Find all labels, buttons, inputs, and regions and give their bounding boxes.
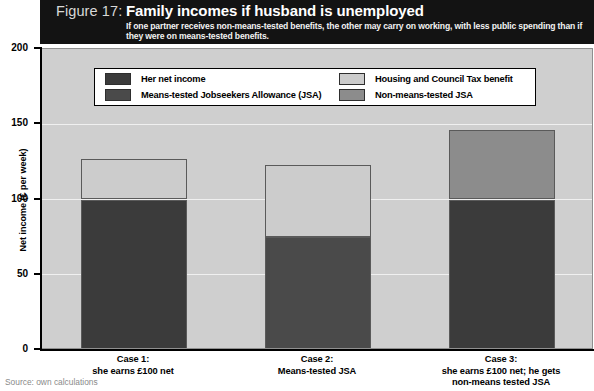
figure-subtitle: If one partner receives non-means-tested…	[126, 21, 586, 42]
legend-swatch-icon	[105, 73, 131, 85]
y-axis-tick-mark	[34, 348, 40, 350]
figure-title: Family incomes if husband is unemployed	[126, 2, 424, 19]
y-axis-tick-mark	[34, 198, 40, 200]
category-description: she earns £100 net; he gets	[406, 366, 594, 378]
y-axis-tick-label: 0	[22, 344, 28, 354]
x-axis-line	[40, 349, 594, 351]
legend-swatch-icon	[105, 89, 131, 101]
legend-label: Non-means-tested JSA	[375, 90, 473, 100]
x-axis-category-label: Case 1:she earns £100 net	[38, 354, 228, 377]
category-description: Means-tested JSA	[222, 366, 412, 378]
y-axis-tick-label: 200	[11, 43, 28, 53]
y-axis-tick-mark	[34, 122, 40, 124]
bar-segment[interactable]	[265, 237, 371, 349]
category-name: Case 3:	[406, 354, 594, 366]
figure-number-label: Figure 17:	[56, 3, 122, 19]
chart-legend: Her net income Means-tested Jobseekers A…	[94, 68, 536, 106]
legend-label: Means-tested Jobseekers Allowance (JSA)	[141, 90, 321, 100]
legend-entry-non-means-tested-jsa: Non-means-tested JSA	[339, 89, 473, 101]
y-axis-tick-mark	[34, 273, 40, 275]
category-name: Case 1:	[38, 354, 228, 366]
legend-swatch-icon	[339, 73, 365, 85]
x-axis-category-label: Case 2:Means-tested JSA	[222, 354, 412, 377]
y-axis-title: Net income (£ per week)	[18, 115, 28, 285]
x-axis-category-label: Case 3:she earns £100 net; he getsnon-me…	[406, 354, 594, 389]
bar-segment[interactable]	[449, 200, 555, 350]
category-description: non-means tested JSA	[406, 377, 594, 389]
source-note: Source: own calculations	[5, 377, 98, 387]
category-name: Case 2:	[222, 354, 412, 366]
legend-swatch-icon	[339, 89, 365, 101]
bar-segment[interactable]	[81, 200, 187, 350]
category-description: she earns £100 net	[38, 366, 228, 378]
bar-segment[interactable]	[81, 159, 187, 200]
legend-entry-her-net-income: Her net income	[105, 73, 205, 85]
y-axis-line	[40, 47, 42, 350]
legend-label: Housing and Council Tax benefit	[375, 74, 513, 84]
legend-label: Her net income	[141, 74, 205, 84]
legend-entry-means-tested-jsa: Means-tested Jobseekers Allowance (JSA)	[105, 89, 321, 101]
figure-header-band: Figure 17: Family incomes if husband is …	[40, 0, 594, 44]
bar-segment[interactable]	[449, 130, 555, 199]
y-axis-tick-mark	[34, 47, 40, 49]
legend-entry-housing-council-tax: Housing and Council Tax benefit	[339, 73, 513, 85]
bar-segment[interactable]	[265, 165, 371, 237]
